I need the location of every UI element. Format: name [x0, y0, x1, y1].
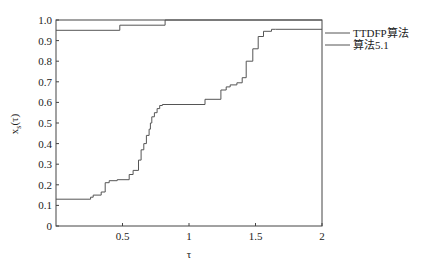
- y-tick-label: 0: [47, 220, 53, 232]
- x-axis-title: τ: [187, 248, 192, 260]
- step-chart: 00.10.20.30.40.50.60.70.80.91.0 0.511.52…: [0, 0, 427, 264]
- series-line-1: [56, 20, 322, 30]
- y-tick-label: 0.3: [38, 158, 52, 170]
- x-tick-label: 0.5: [116, 230, 130, 242]
- legend-label: TTDFP算法: [353, 26, 409, 39]
- y-tick-label: 0.6: [38, 96, 52, 108]
- y-tick-label: 0.7: [38, 76, 52, 88]
- svg-text:xs(τ): xs(τ): [8, 113, 23, 134]
- series-line-2: [56, 29, 322, 199]
- y-tick-label: 1.0: [38, 14, 52, 26]
- y-tick-label: 0.4: [38, 138, 52, 150]
- y-tick-label: 0.5: [38, 117, 52, 129]
- legend-label: 算法5.1: [353, 38, 389, 51]
- y-axis-title: xs(τ): [8, 113, 23, 134]
- x-tick-label: 2: [319, 230, 325, 242]
- y-tick-label: 0.2: [38, 179, 52, 191]
- x-tick-label: 1: [186, 230, 192, 242]
- y-tick-label: 0.8: [38, 55, 52, 67]
- y-tick-label: 0.1: [38, 199, 52, 211]
- x-tick-label: 1.5: [249, 230, 263, 242]
- y-tick-label: 0.9: [38, 35, 52, 47]
- legend: TTDFP算法算法5.1: [325, 26, 409, 51]
- series-layer: [56, 20, 322, 199]
- y-axis-title-arg: (τ): [8, 113, 21, 125]
